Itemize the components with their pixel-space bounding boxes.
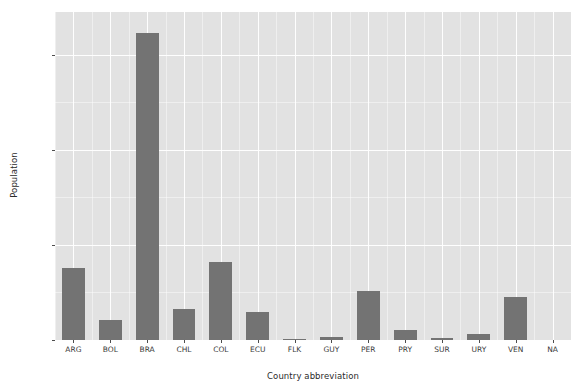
plot-panel	[55, 12, 571, 340]
x-tick-label: GUY	[311, 345, 351, 354]
bar	[99, 320, 122, 340]
gridline-major-v	[110, 12, 111, 340]
gridline-minor-v	[166, 12, 167, 340]
gridline-minor-v	[350, 12, 351, 340]
y-axis-title: Population	[9, 135, 19, 215]
gridline-major-v	[479, 12, 480, 340]
x-tick-mark	[184, 340, 185, 343]
x-tick-mark	[442, 340, 443, 343]
gridline-minor-v	[276, 12, 277, 340]
x-tick-mark	[368, 340, 369, 343]
x-tick-mark	[295, 340, 296, 343]
x-tick-label: BRA	[127, 345, 167, 354]
x-tick-mark	[221, 340, 222, 343]
gridline-minor-v	[55, 12, 56, 340]
x-tick-label: SUR	[422, 345, 462, 354]
gridline-minor-v	[497, 12, 498, 340]
gridline-minor-v	[92, 12, 93, 340]
x-tick-label: PRY	[385, 345, 425, 354]
bar	[173, 309, 196, 340]
x-tick-mark	[516, 340, 517, 343]
x-tick-mark	[331, 340, 332, 343]
gridline-minor-v	[239, 12, 240, 340]
bar-chart: Population 0e+002e+104e+106e+10 ARGBOLBR…	[0, 0, 580, 390]
bar	[394, 330, 417, 340]
gridline-minor-v	[534, 12, 535, 340]
x-tick-label: CHL	[164, 345, 204, 354]
x-tick-mark	[405, 340, 406, 343]
x-tick-label: BOL	[90, 345, 130, 354]
x-tick-label: ECU	[238, 345, 278, 354]
x-tick-mark	[73, 340, 74, 343]
gridline-major-v	[553, 12, 554, 340]
gridline-major-v	[295, 12, 296, 340]
gridline-major-v	[405, 12, 406, 340]
x-tick-label: ARG	[53, 345, 93, 354]
x-tick-label: FLK	[275, 345, 315, 354]
x-tick-label: VEN	[496, 345, 536, 354]
x-tick-mark	[553, 340, 554, 343]
y-tick-mark	[52, 340, 55, 341]
x-tick-label: PER	[348, 345, 388, 354]
x-axis-title: Country abbreviation	[55, 371, 571, 381]
gridline-major-v	[442, 12, 443, 340]
x-tick-mark	[258, 340, 259, 343]
gridline-minor-v	[313, 12, 314, 340]
bar	[62, 268, 85, 340]
gridline-minor-v	[387, 12, 388, 340]
gridline-minor-v	[202, 12, 203, 340]
gridline-major-v	[516, 12, 517, 340]
x-tick-mark	[479, 340, 480, 343]
bar	[504, 297, 527, 340]
x-tick-mark	[110, 340, 111, 343]
gridline-minor-v	[460, 12, 461, 340]
gridline-minor-v	[129, 12, 130, 340]
bar	[357, 291, 380, 340]
bar	[246, 312, 269, 340]
gridline-major-v	[184, 12, 185, 340]
gridline-minor-v	[424, 12, 425, 340]
bar	[136, 33, 159, 340]
gridline-major-v	[258, 12, 259, 340]
gridline-major-v	[331, 12, 332, 340]
bar	[209, 262, 232, 340]
x-tick-label: URY	[459, 345, 499, 354]
x-tick-mark	[147, 340, 148, 343]
x-tick-label: COL	[201, 345, 241, 354]
x-tick-label: NA	[533, 345, 573, 354]
